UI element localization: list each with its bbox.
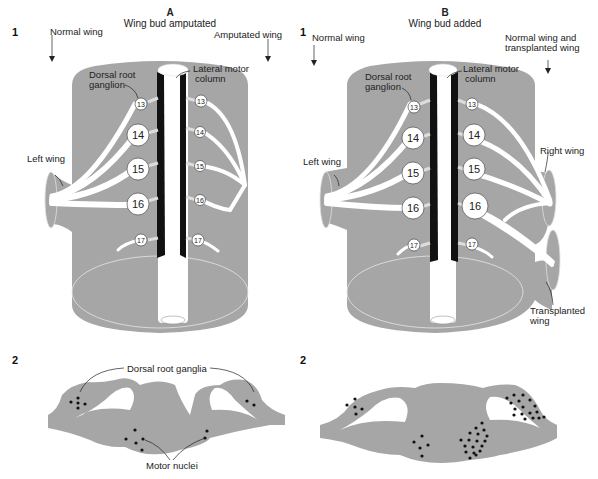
panel-a-letter: A <box>140 7 200 18</box>
panel-a-ganglion-right-13: 13 <box>197 97 205 107</box>
panel-b-row1-number: 1 <box>300 26 306 38</box>
panel-b-ganglion-right-13: 13 <box>468 100 476 110</box>
panel-a-row1-number: 1 <box>12 26 18 38</box>
panel-b-transplanted-wing-label-2: wing <box>530 316 550 326</box>
panel-a-ganglion-left-13: 13 <box>137 100 145 110</box>
panel-a-spinal-cord <box>157 64 188 324</box>
panel-b-title: Wing bud added <box>375 18 515 29</box>
panel-b-ganglion-left-15: 15 <box>407 168 419 178</box>
panel-a-dorsal-root-ganglion-label-2: ganglion <box>89 80 125 90</box>
panel-a-amputated-wing-label: Amputated wing <box>214 30 282 40</box>
panel-b-normal-and-transplanted-label-2: transplanted wing <box>505 43 579 53</box>
panel-a-ganglion-right-16: 16 <box>196 196 204 206</box>
dorsal-root-ganglia-label: Dorsal root ganglia <box>127 364 207 374</box>
panel-b-ganglion-right-17: 17 <box>468 240 476 250</box>
panel-a-row2-number: 2 <box>12 354 18 366</box>
panel-b-ganglion-right-14: 14 <box>468 130 480 140</box>
panel-a-ganglion-right-17: 17 <box>194 236 202 246</box>
panel-b-left-wing-label: Left wing <box>303 157 341 167</box>
panel-a-normal-wing-label: Normal wing <box>50 27 103 37</box>
panel-b-ganglion-left-13: 13 <box>410 103 418 113</box>
panel-a-ganglion-right-15: 15 <box>196 162 204 172</box>
panel-a-ganglion-left-15: 15 <box>132 164 144 174</box>
panel-b-ganglion-left-17: 17 <box>410 241 418 251</box>
panel-b-right-wing-label: Right wing <box>540 146 584 156</box>
panel-b-ganglion-right-16: 16 <box>469 201 481 211</box>
panel-a-ganglion-left-16: 16 <box>132 199 144 209</box>
motor-nuclei-label: Motor nuclei <box>146 461 198 471</box>
panel-a-ganglion-left-17: 17 <box>137 236 145 246</box>
panel-a-left-wing-label: Left wing <box>27 154 65 164</box>
panel-b-dorsal-root-ganglion-label-2: ganglion <box>365 82 401 92</box>
panel-a-ganglion-left-14: 14 <box>132 130 144 140</box>
panel-a-cross-section <box>48 378 285 454</box>
panel-a-title: Wing bud amputated <box>100 18 240 29</box>
panel-b-letter: B <box>415 7 475 18</box>
panel-b-lateral-motor-column-label-2: column <box>465 74 496 84</box>
panel-b-normal-wing-label: Normal wing <box>312 33 365 43</box>
panel-b-ganglion-left-14: 14 <box>407 133 419 143</box>
panel-a-lateral-motor-column-label-2: column <box>195 74 226 84</box>
panel-a-ganglion-right-14: 14 <box>196 128 204 138</box>
panel-b-spinal-cord <box>429 64 458 324</box>
panel-b-row2-number: 2 <box>300 354 306 366</box>
panel-b-ganglion-left-16: 16 <box>407 203 419 213</box>
panel-b-ganglion-right-15: 15 <box>468 164 480 174</box>
